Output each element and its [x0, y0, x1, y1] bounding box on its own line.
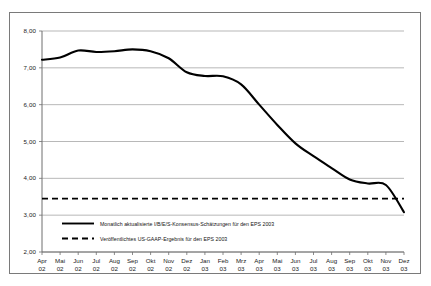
x-tick-year: 02 — [165, 265, 172, 272]
gridlines-group — [42, 31, 404, 252]
x-tick-year: 03 — [238, 265, 245, 272]
x-tick-year: 03 — [346, 265, 353, 272]
x-tick-year: 02 — [111, 265, 118, 272]
x-tick-year: 03 — [310, 265, 317, 272]
x-tick-month: Aug — [326, 257, 337, 264]
x-tick-month: Sep — [127, 257, 138, 264]
x-tick-year: 03 — [220, 265, 227, 272]
y-tick-label: 7,00 — [10, 64, 36, 71]
x-tick-month: Nov — [380, 257, 391, 264]
eps-consensus-line-chart — [0, 0, 431, 286]
x-tick-month: Okt — [363, 257, 373, 264]
x-tick-year: 03 — [328, 265, 335, 272]
x-tick-month: Okt — [146, 257, 156, 264]
x-tick-label: Dez03 — [391, 257, 417, 272]
x-tick-month: Jun — [73, 257, 83, 264]
x-tick-month: Jul — [92, 257, 100, 264]
x-tick-month: Dez — [181, 257, 192, 264]
x-tick-year: 02 — [75, 265, 82, 272]
x-tick-month: Jan — [200, 257, 210, 264]
x-tick-month: Mai — [55, 257, 65, 264]
monthly-consensus-estimate-solid-line — [42, 49, 404, 212]
x-tick-marks-group — [42, 252, 404, 255]
x-tick-year: 03 — [382, 265, 389, 272]
y-tick-label: 2,00 — [10, 248, 36, 255]
y-tick-label: 3,00 — [10, 211, 36, 218]
x-tick-month: Mrz — [236, 257, 246, 264]
x-tick-month: Jun — [290, 257, 300, 264]
x-tick-year: 03 — [201, 265, 208, 272]
x-tick-month: Feb — [218, 257, 229, 264]
x-tick-month: Apr — [37, 257, 47, 264]
x-tick-year: 03 — [274, 265, 281, 272]
x-tick-month: Sep — [344, 257, 355, 264]
x-tick-year: 02 — [39, 265, 46, 272]
y-tick-label: 4,00 — [10, 174, 36, 181]
x-tick-year: 02 — [57, 265, 64, 272]
x-tick-year: 03 — [401, 265, 408, 272]
legend-item-consensus-label: Monatlich aktualisierte I/B/E/S-Konsensu… — [100, 221, 274, 227]
y-tick-label: 5,00 — [10, 138, 36, 145]
x-tick-year: 03 — [292, 265, 299, 272]
y-tick-label: 6,00 — [10, 101, 36, 108]
x-tick-month: Apr — [254, 257, 264, 264]
x-tick-month: Aug — [109, 257, 120, 264]
x-tick-month: Dez — [398, 257, 409, 264]
x-tick-month: Jul — [310, 257, 318, 264]
y-tick-label: 8,00 — [10, 27, 36, 34]
x-tick-month: Nov — [163, 257, 174, 264]
x-tick-year: 03 — [364, 265, 371, 272]
legend-item-gaap-label: Veröffentlichtes US-GAAP-Ergebnis für de… — [100, 236, 227, 242]
x-tick-year: 03 — [256, 265, 263, 272]
x-tick-year: 02 — [93, 265, 100, 272]
x-tick-year: 02 — [147, 265, 154, 272]
x-tick-year: 02 — [183, 265, 190, 272]
x-tick-month: Mai — [272, 257, 282, 264]
x-tick-year: 02 — [129, 265, 136, 272]
